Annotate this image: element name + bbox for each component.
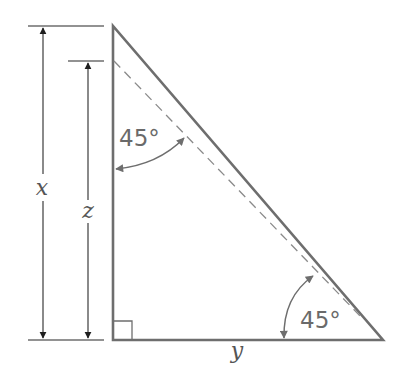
y-label: y [230, 338, 244, 363]
top-angle-label: 45° [119, 125, 160, 151]
bottom-angle-label: 45° [300, 307, 341, 333]
triangle-diagram: x z 45° 45° y [0, 0, 404, 384]
dashed-parallel-line [114, 61, 364, 320]
right-angle-marker [113, 321, 132, 340]
z-label: z [81, 198, 94, 223]
right-triangle [113, 26, 383, 340]
x-label: x [36, 175, 49, 200]
